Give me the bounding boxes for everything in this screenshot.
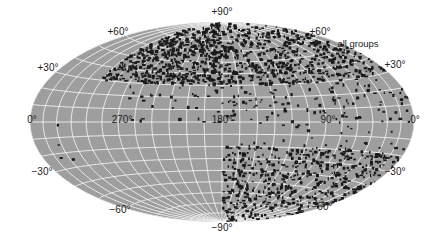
label-lat-minus30-right: −30° xyxy=(385,167,406,177)
label-lat-plus30-left: +30° xyxy=(38,63,59,73)
label-lat-minus30-left: −30° xyxy=(32,167,53,177)
label-lat-plus30-right: +30° xyxy=(385,60,406,70)
label-lon-0-right: 0° xyxy=(410,115,420,125)
label-lat-minus60-left: −60° xyxy=(110,205,131,215)
label-lat-plus60-left: +60° xyxy=(108,27,129,37)
label-lon-270: 270° xyxy=(112,115,133,125)
label-lat-minus90: −90° xyxy=(212,223,233,233)
label-lat-plus60-right: +60° xyxy=(310,27,331,37)
label-lat-minus60-right: −60° xyxy=(312,202,333,212)
label-lon-90: 90° xyxy=(320,115,335,125)
label-lon-180: 180° xyxy=(212,115,233,125)
label-lon-0-left: 0° xyxy=(27,115,37,125)
figure-title: all groups xyxy=(337,39,378,49)
label-lat-plus90: +90° xyxy=(212,7,233,17)
